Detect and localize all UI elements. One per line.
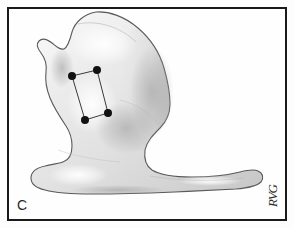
artist-signature: RVG — [262, 172, 284, 216]
landmark-marker-bottom-right[interactable] — [104, 109, 112, 117]
bone-shade-neck — [50, 48, 74, 88]
panel-label: C — [17, 198, 28, 212]
landmark-marker-top-left[interactable] — [68, 72, 76, 80]
bone-highlight-tail — [178, 176, 242, 186]
bone-highlight-lower — [48, 164, 108, 186]
landmark-marker-bottom-left[interactable] — [81, 116, 89, 124]
figure-panel: C RVG — [0, 0, 294, 228]
landmark-marker-top-right[interactable] — [93, 66, 101, 74]
bone-shade-foot — [70, 185, 166, 195]
artist-signature-text: RVG — [265, 173, 281, 219]
bone-illustration — [0, 0, 294, 228]
